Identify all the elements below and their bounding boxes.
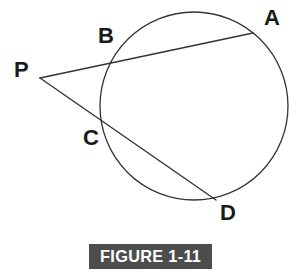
geometry-diagram bbox=[0, 0, 302, 275]
figure-caption-banner: FIGURE 1-11 bbox=[89, 244, 212, 269]
point-label-a: A bbox=[264, 7, 280, 29]
point-label-p: P bbox=[14, 59, 29, 81]
point-label-b: B bbox=[98, 25, 114, 47]
figure-caption-text: FIGURE 1-11 bbox=[100, 248, 201, 265]
secant-line-pcd bbox=[40, 78, 216, 200]
circle-shape bbox=[100, 12, 288, 200]
secant-line-pba bbox=[40, 33, 253, 78]
figure-container: A B C D P FIGURE 1-11 bbox=[0, 0, 302, 275]
point-label-c: C bbox=[83, 127, 99, 149]
point-label-d: D bbox=[220, 202, 236, 224]
